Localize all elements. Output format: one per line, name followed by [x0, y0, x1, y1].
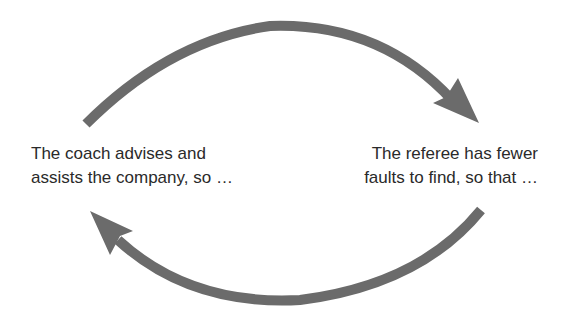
cycle-diagram: The coach advises and assists the compan… — [0, 0, 568, 318]
arrow-coach-to-referee — [86, 26, 479, 124]
node-coach: The coach advises and assists the compan… — [31, 142, 233, 190]
node-coach-line-1: The coach advises and — [31, 142, 233, 166]
bottom-arc-shaft — [118, 210, 481, 301]
node-coach-line-2: assists the company, so … — [31, 166, 233, 190]
node-referee-line-2: faults to find, so that … — [364, 166, 538, 190]
node-referee: The referee has fewer faults to find, so… — [364, 142, 538, 190]
node-referee-line-1: The referee has fewer — [364, 142, 538, 166]
top-arc-shaft — [86, 26, 452, 124]
arrow-referee-to-coach — [90, 210, 481, 301]
